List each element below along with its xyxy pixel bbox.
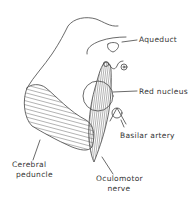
label-cerebral-peduncle-2: peduncle xyxy=(16,170,53,179)
label-red-nucleus: Red nucleus xyxy=(139,87,188,96)
tectum-arc xyxy=(87,37,126,54)
label-oculomotor-nerve-2: nerve xyxy=(96,184,142,193)
aqueduct-shape xyxy=(107,43,118,53)
basilar-artery-shape xyxy=(112,108,122,118)
midbrain-outline xyxy=(27,18,118,88)
label-basilar-artery: Basilar artery xyxy=(120,131,175,140)
label-cerebral-peduncle-1: Cerebral xyxy=(12,160,46,169)
label-oculomotor-nerve-1: Oculomotor xyxy=(96,174,142,183)
label-aqueduct: Aqueduct xyxy=(139,35,177,44)
